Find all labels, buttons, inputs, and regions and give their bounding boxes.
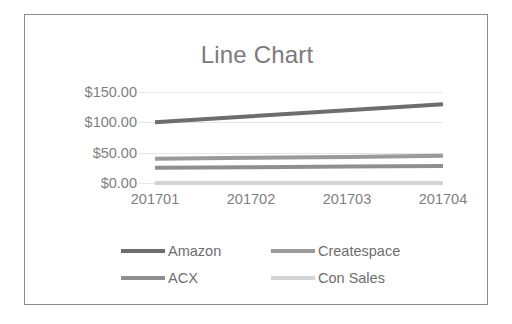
legend-row: ACX Con Sales xyxy=(121,264,421,291)
legend-label: Amazon xyxy=(168,243,221,259)
series-line xyxy=(155,166,443,168)
x-axis-tick-label: 201702 xyxy=(227,191,275,207)
series-line xyxy=(155,104,443,122)
x-axis-tick-label: 201703 xyxy=(323,191,371,207)
x-axis: 201701 201702 201703 201704 xyxy=(155,191,443,211)
legend-label: Con Sales xyxy=(318,270,385,286)
legend-swatch-icon xyxy=(121,276,165,280)
y-axis-tick-label: $150.00 xyxy=(49,84,137,100)
legend-item-amazon[interactable]: Amazon xyxy=(121,243,271,259)
legend-swatch-icon xyxy=(271,276,315,280)
y-axis-tick-label: $100.00 xyxy=(49,114,137,130)
legend-row: Amazon Createspace xyxy=(121,237,421,264)
legend-swatch-icon xyxy=(271,249,315,253)
screenshot-root: Line Chart $150.00 $100.00 $50.00 $0.00 … xyxy=(0,0,512,324)
legend-label: Createspace xyxy=(318,243,400,259)
chart-title: Line Chart xyxy=(25,41,489,69)
x-axis-tick-label: 201704 xyxy=(419,191,467,207)
y-axis-tick-label: $50.00 xyxy=(49,145,137,161)
y-axis-tick-label: $0.00 xyxy=(49,175,137,191)
x-axis-tick-label: 201701 xyxy=(131,191,179,207)
series-line xyxy=(155,156,443,159)
legend-item-createspace[interactable]: Createspace xyxy=(271,243,421,259)
series-lines xyxy=(155,92,443,183)
legend-item-acx[interactable]: ACX xyxy=(121,270,271,286)
y-axis: $150.00 $100.00 $50.00 $0.00 xyxy=(31,92,137,183)
chart-container[interactable]: Line Chart $150.00 $100.00 $50.00 $0.00 … xyxy=(24,14,488,305)
legend-swatch-icon xyxy=(121,249,165,253)
legend-label: ACX xyxy=(168,270,198,286)
legend-item-con-sales[interactable]: Con Sales xyxy=(271,270,421,286)
chart-legend[interactable]: Amazon Createspace ACX Con Sales xyxy=(121,237,421,291)
plot-area xyxy=(155,92,443,183)
